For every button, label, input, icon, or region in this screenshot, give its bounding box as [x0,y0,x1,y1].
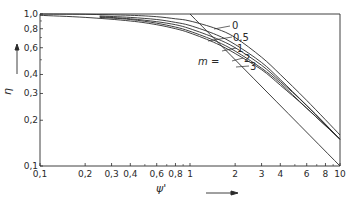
y-axis-label: η [1,88,14,95]
curves [40,14,340,166]
curve-label: 3 [250,61,256,72]
x-tick-label: 10 [334,169,346,179]
curve-label: 0,5 [233,32,249,43]
plot-frame [40,14,340,166]
curve-m-0-5 [100,16,340,139]
x-tick-label: 0,4 [123,169,138,179]
y-tick-label: 0,8 [24,24,39,34]
x-tick-label: 0,6 [150,169,165,179]
y-tick-label: 0,3 [24,88,38,98]
x-tick-label: 0,3 [104,169,118,179]
y-tick-label: 0,2 [24,115,38,125]
y-tick-label: 0,4 [24,69,39,79]
legend-title: m = [198,56,219,67]
y-axis-arrow-icon [15,44,19,74]
curve-label: 1 [237,43,243,54]
curve-m-1 [100,17,340,140]
x-tick-label: 2 [232,169,238,179]
x-tick-label: 1 [187,169,193,179]
x-axis-ticks: 0,10,20,30,40,60,812346810 [33,163,346,179]
curve-m-2 [100,17,340,139]
x-axis-arrow-icon [206,191,238,195]
x-tick-label: 6 [304,169,310,179]
x-axis-label: ψ' [156,182,166,195]
x-tick-label: 0,1 [33,169,47,179]
curve-m-0 [40,14,340,135]
x-tick-label: 4 [277,169,283,179]
efficiency-chart: 0,10,20,30,40,60,81,0 0,10,20,30,40,60,8… [0,0,351,207]
x-tick-label: 0,2 [78,169,92,179]
x-tick-label: 3 [259,169,265,179]
x-tick-label: 8 [323,169,329,179]
x-tick-label: 0,8 [168,169,183,179]
y-tick-label: 0,6 [24,43,39,53]
y-tick-label: 1,0 [24,9,39,19]
curve-label: 0 [232,20,238,31]
